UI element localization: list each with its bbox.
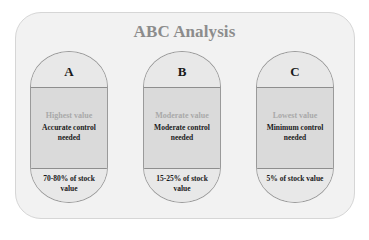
capsule-header: A xyxy=(31,52,107,88)
capsule-header: B xyxy=(144,52,220,88)
capsule-a: A Highest value Accurate control needed … xyxy=(30,51,108,203)
capsule-body: Lowest value Minimum control needed xyxy=(257,88,333,169)
capsule-body: Highest value Accurate control needed xyxy=(31,88,107,169)
category-letter: C xyxy=(257,64,333,80)
category-letter: A xyxy=(31,64,107,80)
control-label: Moderate control needed xyxy=(146,123,218,142)
capsule-footer: 15-25% of stock value xyxy=(144,169,220,203)
control-label: Minimum control needed xyxy=(259,123,331,142)
control-label: Accurate control needed xyxy=(33,123,105,142)
category-letter: B xyxy=(144,64,220,80)
diagram-title: ABC Analysis xyxy=(0,22,369,42)
value-label: Moderate value xyxy=(144,111,220,120)
share-label: 5% of stock value xyxy=(261,174,329,184)
capsule-footer: 70-80% of stock value xyxy=(31,169,107,203)
share-label: 15-25% of stock value xyxy=(148,174,216,194)
capsule-b: B Moderate value Moderate control needed… xyxy=(143,51,221,203)
capsule-footer: 5% of stock value xyxy=(257,169,333,203)
capsule-c: C Lowest value Minimum control needed 5%… xyxy=(256,51,334,203)
share-label: 70-80% of stock value xyxy=(35,174,103,194)
capsule-body: Moderate value Moderate control needed xyxy=(144,88,220,169)
capsule-header: C xyxy=(257,52,333,88)
value-label: Highest value xyxy=(31,111,107,120)
value-label: Lowest value xyxy=(257,111,333,120)
